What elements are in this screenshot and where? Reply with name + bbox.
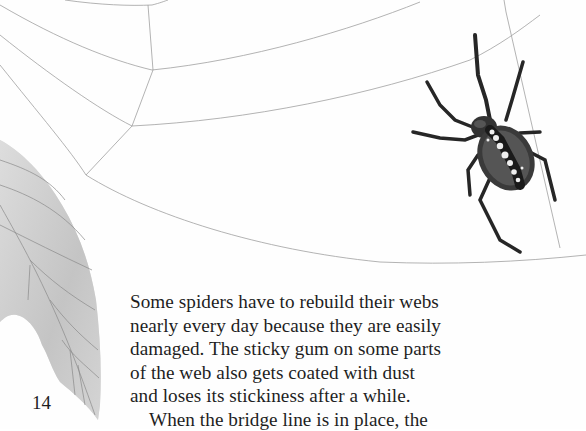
leaf-illustration bbox=[0, 140, 101, 420]
body-text: Some spiders have to rebuild their webs … bbox=[130, 290, 586, 431]
text-line: and loses its stickiness after a while. bbox=[130, 384, 586, 408]
text-line: Some spiders have to rebuild their webs bbox=[130, 290, 586, 314]
text-line: damaged. The sticky gum on some parts bbox=[130, 337, 586, 361]
text-line: nearly every day because they are easily bbox=[130, 314, 586, 338]
text-line: When the bridge line is in place, the bbox=[130, 408, 586, 431]
spider-illustration bbox=[413, 35, 555, 252]
page-number: 14 bbox=[32, 392, 51, 414]
text-line: of the web also gets coated with dust bbox=[130, 361, 586, 385]
